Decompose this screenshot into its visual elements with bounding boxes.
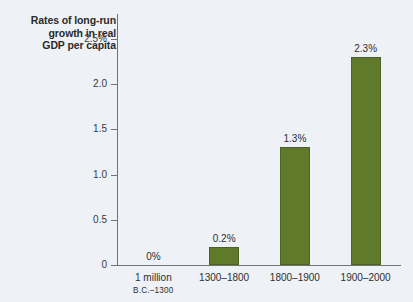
bar-slot: 0% <box>118 14 189 265</box>
chart-title-line-1: Rates of long-run <box>8 14 116 27</box>
x-axis-category-label-line-1: 1 million <box>135 272 172 283</box>
y-axis-tick <box>111 84 117 85</box>
era-marker: B.C. <box>133 286 150 295</box>
x-axis-category-label: 1900–2000 <box>330 271 401 284</box>
bar[interactable] <box>209 247 239 265</box>
y-axis-tick <box>111 129 117 130</box>
bar-slot: 2.3% <box>330 14 401 265</box>
y-axis-tick <box>111 265 117 266</box>
bar-slot: 0.2% <box>189 14 260 265</box>
chart-figure: Rates of long-run growth in real GDP per… <box>0 0 413 302</box>
x-axis-category-label-line-1: 1300–1800 <box>199 272 249 283</box>
y-axis-tick-label: 0 <box>3 259 107 270</box>
y-axis-tick-label: 0.5 <box>3 214 107 225</box>
y-axis-tick-label: 2.0 <box>3 78 107 89</box>
y-axis-tick <box>111 175 117 176</box>
bar-slot: 1.3% <box>260 14 331 265</box>
plot-area: 0%0.2%1.3%2.3% <box>118 14 401 265</box>
bar-value-label: 1.3% <box>283 133 306 144</box>
bar-value-label: 0% <box>146 251 160 262</box>
bar-value-label: 2.3% <box>354 43 377 54</box>
y-axis-tick-label: 2.5% <box>3 33 107 44</box>
bar[interactable] <box>280 147 310 265</box>
y-axis-tick <box>111 220 117 221</box>
y-axis-tick-label: 1.5 <box>3 123 107 134</box>
x-axis-category-label-line-1: 1900–2000 <box>341 272 391 283</box>
y-axis-tick-label: 1.0 <box>3 169 107 180</box>
x-axis-category-label-line-2: B.C.–1300 <box>118 284 189 297</box>
y-axis-tick <box>111 39 117 40</box>
bar[interactable] <box>351 57 381 265</box>
x-axis-category-label-line-1: 1800–1900 <box>270 272 320 283</box>
x-axis-category-label: 1300–1800 <box>189 271 260 284</box>
bar-value-label: 0.2% <box>213 233 236 244</box>
x-axis-category-label: 1 millionB.C.–1300 <box>118 271 189 297</box>
x-axis-category-label: 1800–1900 <box>260 271 331 284</box>
x-axis-line <box>117 265 401 266</box>
